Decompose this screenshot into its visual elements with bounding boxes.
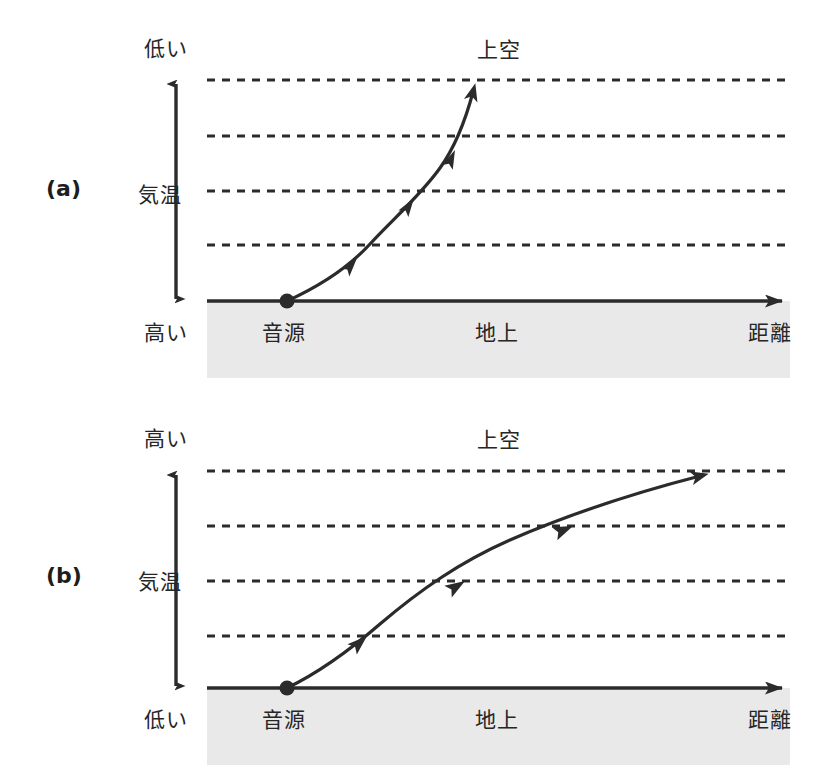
panel-a-source-label: 音源 (262, 316, 305, 346)
panel-b-ground-label: 地上 (475, 703, 518, 733)
panel-b-distance-label: 距離 (748, 703, 791, 733)
panel-b-gridlines (207, 471, 790, 636)
panel-a-ground-label: 地上 (475, 316, 518, 346)
panel-a-label: (a) (46, 176, 81, 201)
sound-refraction-figure: (a) 気温 低い 高い 上空 音源 地上 距離 (b) 気温 高い 低い 上空… (0, 0, 832, 769)
figure-canvas (0, 0, 832, 769)
panel-a-sound-ray (287, 92, 473, 301)
panel-a-sky-label: 上空 (477, 33, 520, 63)
panel-b-label: (b) (46, 563, 82, 588)
panel-a-axis-top-label: 低い (144, 32, 187, 62)
panel-b-axis-bottom-label: 低い (144, 703, 187, 733)
panel-a-axis-bottom-label: 高い (144, 316, 187, 346)
panel-b-temperature-axis-label: 気温 (138, 565, 181, 595)
panel-a-temperature-axis-label: 気温 (138, 178, 181, 208)
panel-b-axis-top-label: 高い (144, 422, 187, 452)
panel-a-distance-label: 距離 (748, 316, 791, 346)
panel-b-source-dot (280, 681, 295, 696)
panel-b-sky-label: 上空 (477, 423, 520, 453)
panel-a-gridlines (207, 80, 790, 245)
panel-b-ray-arrowheads (347, 520, 575, 655)
panel-b-source-label: 音源 (262, 703, 305, 733)
panel-a-source-dot (280, 294, 295, 309)
